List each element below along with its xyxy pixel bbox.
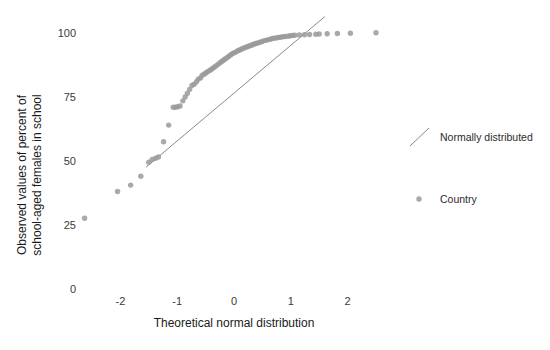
data-point [138,173,143,178]
data-point [324,31,329,36]
y-tick-label: 0 [70,283,76,295]
data-point [373,30,378,35]
chart-canvas: 0255075100 -2-1012 Observed values of pe… [0,0,550,350]
y-tick-label: 50 [64,155,76,167]
data-point [161,139,166,144]
x-tick-label: -2 [116,295,126,307]
data-point [302,32,307,37]
data-point [166,122,171,127]
data-point [156,154,161,159]
x-tick-label: 0 [231,295,237,307]
y-tick-label: 75 [64,91,76,103]
data-point [348,31,353,36]
data-point [307,32,312,37]
data-point [115,189,120,194]
y-axis-title: Observed values of percent of school-age… [15,94,44,255]
y-axis-title-line-1: Observed values of percent of [15,94,29,255]
y-tick-label: 25 [64,219,76,231]
y-tick-label: 100 [58,27,76,39]
x-tick-label: 1 [288,295,294,307]
data-point [335,31,340,36]
legend-entry-label: Country [440,193,478,205]
data-point [82,216,87,221]
qq-plot-figure: 0255075100 -2-1012 Observed values of pe… [0,0,550,350]
legend-point-swatch [416,196,421,201]
y-axis-title-line-2: school-aged females in school [30,94,44,255]
legend-entry-label: Normally distributed [440,131,533,143]
x-tick-label: -1 [172,295,182,307]
data-point [128,182,133,187]
chart-background [0,0,550,350]
x-axis-title: Theoretical normal distribution [154,316,315,330]
data-point [177,103,182,108]
x-tick-label: 2 [345,295,351,307]
data-point [297,32,302,37]
data-point [317,31,322,36]
